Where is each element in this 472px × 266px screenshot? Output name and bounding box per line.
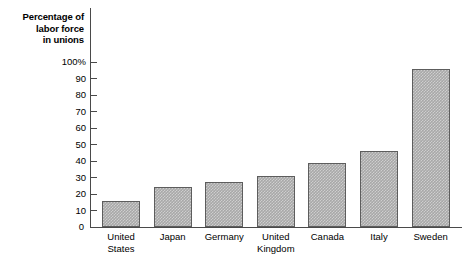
y-tick-label-100: 100% — [32, 57, 86, 67]
y-tick-label-90: 90 — [32, 74, 86, 84]
y-axis-line — [90, 8, 91, 228]
bar-chart: Percentage of labor force in unions 0102… — [0, 0, 472, 266]
y-tick-50 — [91, 144, 97, 145]
bar — [154, 187, 192, 227]
x-axis-label: Sweden — [391, 231, 471, 243]
y-tick-80 — [91, 95, 97, 96]
y-tick-label-60: 60 — [32, 123, 86, 133]
x-axis-label-line: Kingdom — [236, 243, 316, 255]
y-tick-30 — [91, 177, 97, 178]
bar — [257, 176, 295, 227]
y-tick-40 — [91, 161, 97, 162]
y-tick-label-40: 40 — [32, 156, 86, 166]
y-tick-label-10: 10 — [32, 206, 86, 216]
y-tick-60 — [91, 128, 97, 129]
x-axis-label-line: States — [81, 243, 161, 255]
y-tick-label-30: 30 — [32, 173, 86, 183]
y-tick-label-20: 20 — [32, 189, 86, 199]
y-tick-100 — [91, 62, 97, 63]
plot-area: 0102030405060708090100% UnitedStatesJapa… — [0, 0, 472, 266]
y-tick-90 — [91, 78, 97, 79]
bar — [412, 69, 450, 227]
bar — [308, 163, 346, 227]
bar — [205, 182, 243, 227]
y-tick-label-80: 80 — [32, 90, 86, 100]
y-tick-20 — [91, 194, 97, 195]
bar — [102, 201, 140, 227]
x-axis-label-line: Sweden — [391, 231, 471, 243]
y-tick-70 — [91, 111, 97, 112]
y-tick-label-50: 50 — [32, 140, 86, 150]
bar — [360, 151, 398, 227]
y-tick-label-70: 70 — [32, 107, 86, 117]
y-tick-10 — [91, 210, 97, 211]
